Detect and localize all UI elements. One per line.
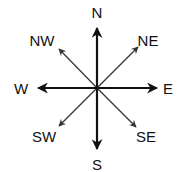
label-n: N: [92, 4, 103, 21]
arrow-ne: [97, 47, 138, 88]
compass-rose: N NE E SE S SW W NW: [0, 0, 180, 172]
label-s: S: [92, 156, 102, 172]
label-e: E: [163, 80, 173, 97]
label-w: W: [14, 80, 29, 97]
label-nw: NW: [30, 32, 56, 49]
label-se: SE: [136, 128, 156, 145]
arrow-nw: [59, 49, 97, 88]
arrow-sw: [59, 88, 97, 126]
label-ne: NE: [138, 32, 159, 49]
label-sw: SW: [32, 128, 57, 145]
arrow-se: [97, 88, 136, 127]
